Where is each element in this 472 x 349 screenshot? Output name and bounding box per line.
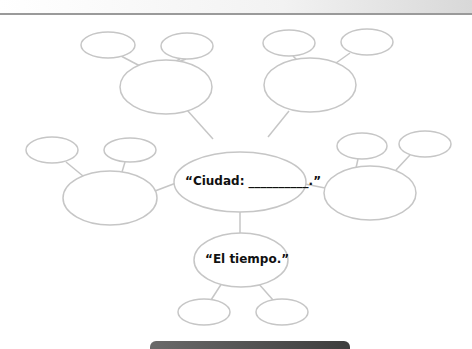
node-right-child-1 <box>337 133 387 159</box>
node-top-left <box>120 60 212 114</box>
page-bottom-tab <box>150 341 350 349</box>
node-left <box>63 171 157 225</box>
node-top-left-child-2 <box>161 33 213 59</box>
node-top-right-child-1 <box>263 30 315 56</box>
node-top-right-child-2 <box>341 29 393 55</box>
node-bottom-child-1 <box>178 299 230 325</box>
node-top-right <box>264 58 356 112</box>
center-node-label: “Ciudad: __________.” <box>185 174 321 188</box>
node-right-child-2 <box>399 131 451 157</box>
bottom-node-label: “El tiempo.” <box>205 252 289 266</box>
node-left-child-1 <box>26 137 78 163</box>
node-bottom-child-2 <box>256 299 308 325</box>
node-top-left-child-1 <box>81 32 135 58</box>
node-right <box>324 166 416 220</box>
node-left-child-2 <box>104 138 156 162</box>
